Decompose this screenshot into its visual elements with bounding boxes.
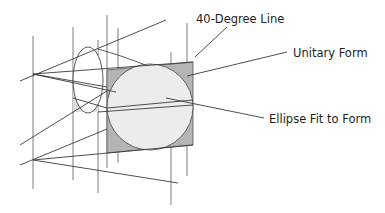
label-unitary-form: Unitary Form [293, 46, 368, 60]
leader-unitary-form [187, 52, 287, 76]
leader-40-degree-line [195, 27, 227, 57]
label-ellipse-fit: Ellipse Fit to Form [269, 112, 371, 126]
perspective-line [33, 160, 178, 183]
perspective-ellipse-diagram: 40-Degree Line Unitary Form Ellipse Fit … [0, 0, 385, 213]
label-40-degree-line: 40-Degree Line [196, 12, 284, 26]
ellipse-arc [98, 49, 148, 66]
